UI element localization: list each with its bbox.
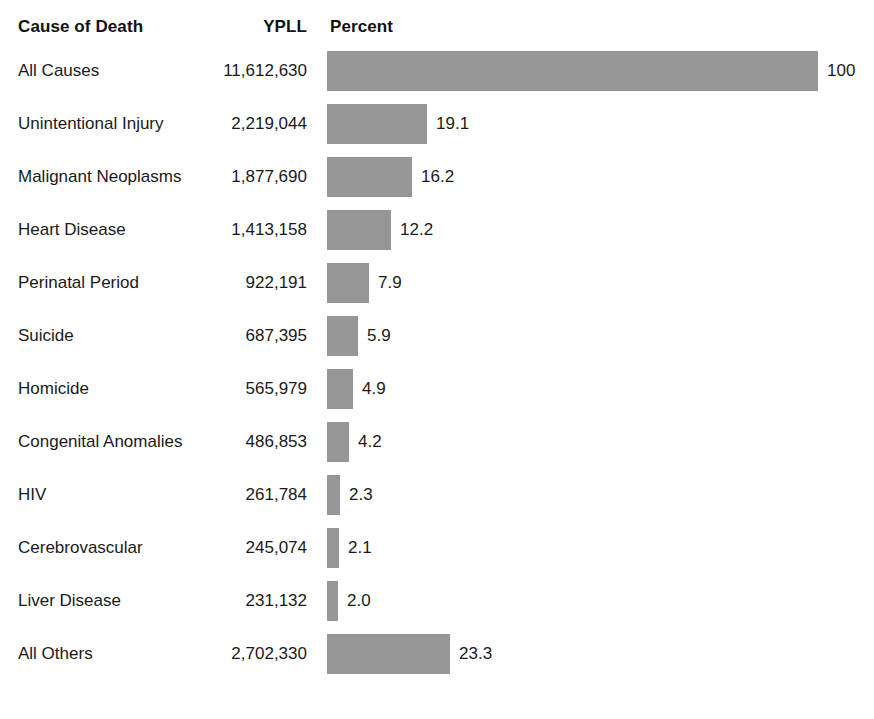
row-value-ypll: 231,132 <box>120 591 307 611</box>
row-value-ypll: 565,979 <box>120 379 307 399</box>
bar <box>327 210 391 250</box>
row-value-ypll: 245,074 <box>120 538 307 558</box>
chart-row: Liver Disease231,1322.0 <box>0 574 874 627</box>
row-value-ypll: 486,853 <box>120 432 307 452</box>
column-header-percent: Percent <box>330 17 393 37</box>
row-bar-group: 16.2 <box>327 157 454 197</box>
row-label-cause: HIV <box>18 485 46 505</box>
row-bar-group: 100 <box>327 51 855 91</box>
row-bar-group: 7.9 <box>327 263 402 303</box>
bar <box>327 157 412 197</box>
bar <box>327 51 818 91</box>
row-label-cause: Suicide <box>18 326 74 346</box>
row-bar-group: 12.2 <box>327 210 433 250</box>
chart-row: HIV261,7842.3 <box>0 468 874 521</box>
row-label-cause: All Causes <box>18 61 99 81</box>
bar-value-label: 7.9 <box>378 273 402 293</box>
chart-row: Unintentional Injury2,219,04419.1 <box>0 97 874 150</box>
row-bar-group: 2.0 <box>327 581 371 621</box>
bar <box>327 263 369 303</box>
bar-value-label: 16.2 <box>421 167 454 187</box>
row-value-ypll: 687,395 <box>120 326 307 346</box>
bar-value-label: 19.1 <box>436 114 469 134</box>
bar-value-label: 2.0 <box>347 591 371 611</box>
column-header-ypll: YPLL <box>180 17 307 37</box>
row-value-ypll: 2,219,044 <box>120 114 307 134</box>
chart-row: All Causes11,612,630100 <box>0 44 874 97</box>
bar-value-label: 2.3 <box>349 485 373 505</box>
chart-row: Suicide687,3955.9 <box>0 309 874 362</box>
chart-row: Heart Disease1,413,15812.2 <box>0 203 874 256</box>
bar <box>327 369 353 409</box>
bar <box>327 104 427 144</box>
bar <box>327 422 349 462</box>
row-value-ypll: 922,191 <box>120 273 307 293</box>
column-header-cause-of-death: Cause of Death <box>18 17 143 37</box>
row-value-ypll: 1,413,158 <box>120 220 307 240</box>
bar-value-label: 2.1 <box>348 538 372 558</box>
row-bar-group: 2.3 <box>327 475 373 515</box>
chart-canvas: Cause of Death YPLL Percent All Causes11… <box>0 0 874 719</box>
chart-row: Cerebrovascular245,0742.1 <box>0 521 874 574</box>
row-bar-group: 23.3 <box>327 634 492 674</box>
row-label-cause: Heart Disease <box>18 220 126 240</box>
row-value-ypll: 1,877,690 <box>120 167 307 187</box>
bar <box>327 316 358 356</box>
bar <box>327 475 340 515</box>
bar-value-label: 100 <box>827 61 855 81</box>
bar <box>327 528 339 568</box>
chart-row: Congenital Anomalies486,8534.2 <box>0 415 874 468</box>
row-label-cause: Homicide <box>18 379 89 399</box>
bar-value-label: 23.3 <box>459 644 492 664</box>
row-label-cause: All Others <box>18 644 93 664</box>
chart-row: All Others2,702,33023.3 <box>0 627 874 680</box>
row-value-ypll: 11,612,630 <box>120 61 307 81</box>
row-value-ypll: 261,784 <box>120 485 307 505</box>
bar <box>327 581 338 621</box>
row-bar-group: 5.9 <box>327 316 391 356</box>
chart-row: Malignant Neoplasms1,877,69016.2 <box>0 150 874 203</box>
row-bar-group: 19.1 <box>327 104 469 144</box>
row-bar-group: 2.1 <box>327 528 372 568</box>
bar-value-label: 5.9 <box>367 326 391 346</box>
bar-value-label: 4.9 <box>362 379 386 399</box>
row-value-ypll: 2,702,330 <box>120 644 307 664</box>
row-bar-group: 4.9 <box>327 369 386 409</box>
bar-value-label: 4.2 <box>358 432 382 452</box>
chart-row: Homicide565,9794.9 <box>0 362 874 415</box>
row-label-cause: Liver Disease <box>18 591 121 611</box>
bar-value-label: 12.2 <box>400 220 433 240</box>
bar <box>327 634 450 674</box>
row-bar-group: 4.2 <box>327 422 382 462</box>
chart-row: Perinatal Period922,1917.9 <box>0 256 874 309</box>
